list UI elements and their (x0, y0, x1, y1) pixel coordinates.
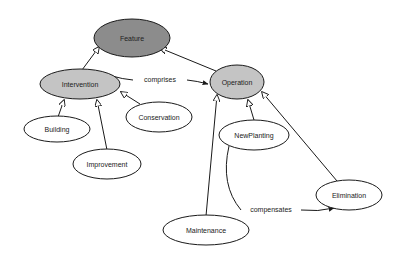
feature-label: Feature (120, 35, 144, 42)
edge-compensates-start (226, 146, 241, 210)
building-label: Building (45, 126, 70, 134)
comprises-label: comprises (144, 76, 176, 84)
edge-building-intervention (58, 100, 64, 117)
node-operation[interactable]: Operation (210, 65, 264, 99)
edge-operation-feature (160, 48, 216, 71)
node-feature[interactable]: Feature (94, 19, 170, 57)
node-conservation[interactable]: Conservation (126, 102, 192, 132)
elimination-label: Elimination (332, 192, 366, 199)
compensates-label: compensates (250, 206, 292, 214)
operation-label: Operation (222, 79, 253, 87)
newplanting-label: NewPlanting (234, 132, 273, 140)
node-intervention[interactable]: Intervention (40, 69, 120, 99)
ontology-diagram: comprises compensates Feature Interventi… (0, 0, 404, 256)
edge-compensates-end (301, 208, 334, 211)
edge-intervention-feature (82, 47, 99, 70)
improvement-label: Improvement (87, 161, 128, 169)
node-maintenance[interactable]: Maintenance (163, 215, 249, 245)
maintenance-label: Maintenance (186, 227, 226, 234)
intervention-label: Intervention (62, 81, 99, 88)
edge-maintenance-operation (206, 95, 217, 216)
edge-comprises-end (187, 80, 208, 84)
edge-improvement-intervention (97, 100, 107, 150)
node-newplanting[interactable]: NewPlanting (219, 120, 289, 150)
node-improvement[interactable]: Improvement (73, 149, 141, 179)
edge-newplanting-operation (248, 100, 254, 120)
node-building[interactable]: Building (24, 116, 90, 142)
node-elimination[interactable]: Elimination (316, 180, 382, 210)
conservation-label: Conservation (138, 114, 179, 121)
edge-conservation-intervention (121, 92, 140, 104)
